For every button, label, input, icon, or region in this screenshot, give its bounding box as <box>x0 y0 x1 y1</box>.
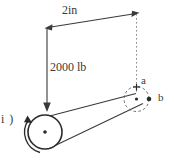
dimension-arrow <box>45 11 140 31</box>
figure-canvas: 2in 2000 lb a b i ) <box>0 0 174 165</box>
load-arrowhead <box>43 103 51 113</box>
right-end-center-dot <box>135 97 138 100</box>
right-end-circle <box>124 84 151 112</box>
left-end-center-dot <box>43 130 47 134</box>
load-label: 2000 lb <box>50 61 86 73</box>
left-end-circle <box>28 115 62 149</box>
item-number-label: i ) <box>1 113 14 125</box>
dimension-arrowhead-left <box>45 24 53 30</box>
shaft-diagram <box>0 0 174 165</box>
point-b-label: b <box>158 92 164 103</box>
dimension-arrowhead-right <box>132 11 140 17</box>
dimension-label: 2in <box>62 4 77 16</box>
torque-arrowhead <box>24 116 32 124</box>
point-a-label: a <box>141 75 146 86</box>
point-b-marker <box>147 97 152 102</box>
point-a-marker <box>133 84 140 91</box>
